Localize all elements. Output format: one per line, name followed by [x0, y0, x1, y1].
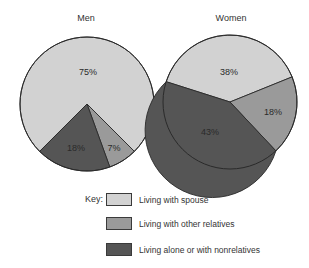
legend: Key: Living with spouse Living with othe… — [0, 0, 309, 268]
legend-item-living-alone-or-with-nonrelatives: Living alone or with nonrelatives — [106, 243, 260, 256]
legend-swatch-alone — [106, 243, 132, 256]
legend-key-label: Key: — [85, 193, 103, 205]
legend-item-label: Living alone or with nonrelatives — [139, 245, 260, 255]
legend-item-label: Living with spouse — [139, 195, 208, 205]
legend-item-label: Living with other relatives — [139, 219, 234, 229]
legend-item-living-with-spouse: Living with spouse — [106, 193, 208, 206]
legend-item-living-with-other-relatives: Living with other relatives — [106, 217, 234, 230]
legend-swatch-spouse — [106, 193, 132, 206]
legend-swatch-relatives — [106, 217, 132, 230]
